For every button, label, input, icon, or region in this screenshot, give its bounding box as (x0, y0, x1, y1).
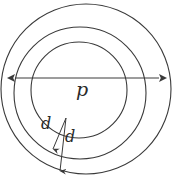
pitch-diameter-label: p (76, 80, 88, 99)
geometry-figure: p d d (0, 0, 174, 183)
outer-thickness-label: d (41, 116, 51, 132)
inner-thickness-label: d (65, 129, 75, 145)
